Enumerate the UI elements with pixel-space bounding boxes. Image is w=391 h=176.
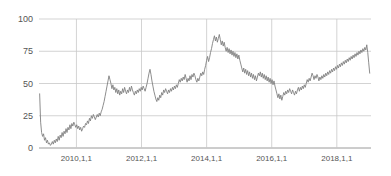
y-tick-label: 25 xyxy=(23,111,33,121)
y-axis-tick-labels: 0255075100 xyxy=(18,14,33,153)
y-tick-label: 0 xyxy=(28,143,33,153)
line-chart: 0255075100 2010,1,12012,1,12014,1,12016,… xyxy=(0,0,391,176)
x-tick-label: 2012,1,1 xyxy=(126,154,158,163)
chart-canvas: 0255075100 2010,1,12012,1,12014,1,12016,… xyxy=(0,0,391,176)
x-axis-tick-labels: 2010,1,12012,1,12014,1,12016,1,12018,1,1 xyxy=(61,154,353,163)
x-tick-label: 2018,1,1 xyxy=(321,154,353,163)
x-tick-label: 2010,1,1 xyxy=(61,154,93,163)
x-tick-label: 2014,1,1 xyxy=(191,154,223,163)
gridlines-horizontal xyxy=(39,19,371,148)
y-tick-label: 75 xyxy=(23,46,33,56)
x-tick-label: 2016,1,1 xyxy=(256,154,288,163)
y-tick-label: 50 xyxy=(23,79,33,89)
y-tick-label: 100 xyxy=(18,14,33,24)
